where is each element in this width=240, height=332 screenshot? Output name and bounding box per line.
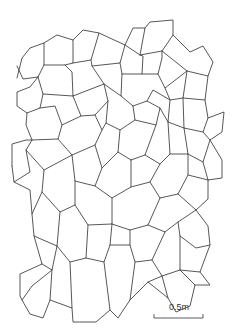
cell-edge: [125, 28, 145, 55]
cell-edge: [32, 106, 62, 140]
cell-edge: [75, 198, 112, 225]
cell-edge: [106, 96, 135, 130]
cell-edge: [17, 77, 43, 113]
cell-edge: [148, 210, 196, 232]
cell-edge: [17, 43, 44, 79]
cell-edge: [188, 140, 210, 162]
cell-edge: [180, 245, 210, 272]
cell-edge: [158, 71, 187, 88]
cell-edge: [131, 125, 156, 160]
cell-edge: [86, 224, 112, 262]
cell-edge: [130, 276, 162, 300]
cell-edge: [145, 122, 170, 164]
cell-edge: [62, 96, 81, 125]
cell-edge: [102, 152, 118, 168]
cell-edge: [50, 262, 72, 308]
cell-edge: [133, 101, 160, 125]
cell-edge: [148, 276, 168, 298]
cell-edge: [20, 264, 42, 300]
cell-edge: [183, 76, 208, 100]
cell-edge: [110, 262, 135, 318]
polygon-network-diagram: [0, 0, 240, 332]
cell-edge: [42, 181, 75, 212]
polygon-edges: [12, 20, 224, 322]
cell-edge: [120, 55, 143, 74]
cell-edge: [150, 154, 188, 198]
cell-edge: [102, 123, 106, 130]
cell-edge: [112, 198, 160, 230]
cell-edge: [22, 270, 52, 318]
cell-edge: [44, 35, 73, 65]
cell-edge: [110, 230, 130, 245]
cell-edge: [140, 20, 173, 55]
cell-edge: [72, 262, 110, 322]
cell-edge: [168, 122, 203, 132]
cell-edge: [130, 232, 165, 262]
cell-edge: [195, 272, 210, 285]
cell-edge: [72, 145, 102, 186]
scale-bar-label: 0.5m: [154, 302, 204, 312]
cell-edge: [32, 212, 60, 246]
cell-edge: [152, 236, 180, 276]
cell-edge: [162, 35, 213, 76]
cell-edge: [57, 225, 88, 262]
cell-edge: [131, 164, 160, 187]
cell-edge: [95, 160, 131, 198]
cell-edge: [81, 84, 108, 116]
cell-edge: [183, 98, 184, 128]
scale-bar: [154, 314, 203, 318]
cell-edge: [170, 128, 188, 154]
cell-edge: [12, 113, 32, 182]
cell-edge: [73, 30, 99, 63]
cell-edge: [73, 66, 104, 96]
cell-edge: [58, 115, 102, 155]
cell-edge: [188, 175, 208, 180]
cell-edge: [43, 65, 73, 96]
cell-edge: [203, 140, 222, 180]
cell-edge: [91, 33, 125, 66]
cell-edge: [203, 100, 224, 140]
cell-edge: [178, 210, 210, 248]
cell-edge: [44, 155, 72, 170]
cell-edge: [104, 74, 122, 96]
cell-edge: [147, 90, 170, 122]
cell-edge: [14, 150, 44, 214]
cell-edge: [118, 130, 131, 160]
